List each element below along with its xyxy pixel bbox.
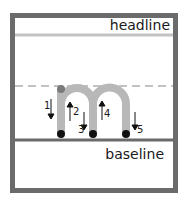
start-dot [57, 85, 65, 93]
headline-label: headline [110, 17, 170, 33]
stroke-number-2: 2 [73, 106, 79, 117]
stroke-number-4: 4 [104, 108, 110, 119]
stroke-number-5: 5 [137, 124, 143, 135]
end-dot [89, 130, 97, 138]
stroke-number-1: 1 [44, 100, 50, 111]
baseline-label: baseline [105, 146, 164, 162]
stroke-number-3: 3 [78, 124, 84, 135]
end-dot [122, 130, 130, 138]
end-dot [57, 130, 65, 138]
letter-m-stroke-diagram: headline baseline [0, 0, 188, 199]
